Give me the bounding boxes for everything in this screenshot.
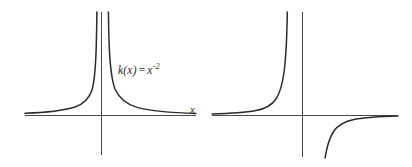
function-label-k: k(x)=x-2 [118,64,160,76]
graph-panel-k-prime: k'(x)=−2x-3 x [206,0,412,167]
curve-kprime-left-branch [212,12,287,114]
exponent-left: -2 [153,62,160,71]
graph-panel-k: k(x)=x-2 x [0,0,206,167]
curve-k-left-branch [25,12,97,113]
figure-pair: k(x)=x-2 x k'(x)=−2x-3 x [0,0,412,167]
function-name-k: k(x) [118,64,137,76]
equals-sign-left: = [137,64,148,76]
curve-kprime-right-branch [325,116,398,158]
x-axis-label-left: x [190,103,195,115]
